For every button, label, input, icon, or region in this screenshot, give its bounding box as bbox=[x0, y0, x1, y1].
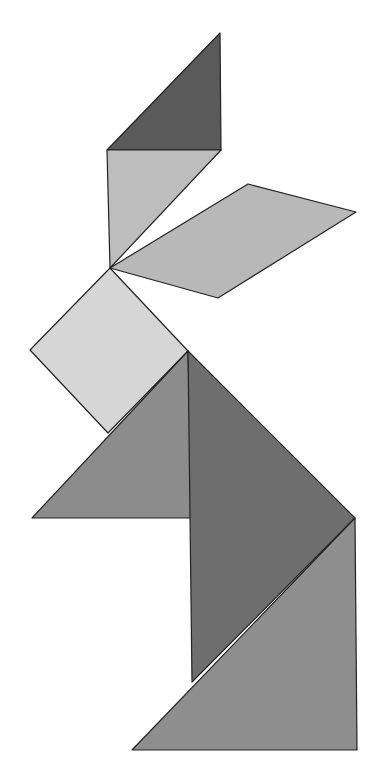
top-small-triangle: Small triangle (ear tip) bbox=[107, 33, 221, 150]
tangram-canvas: Small triangle (ear tip)Triangle (left e… bbox=[0, 0, 385, 777]
tangram-figure: Tangram rabbit Small triangle (ear tip)T… bbox=[0, 0, 385, 777]
